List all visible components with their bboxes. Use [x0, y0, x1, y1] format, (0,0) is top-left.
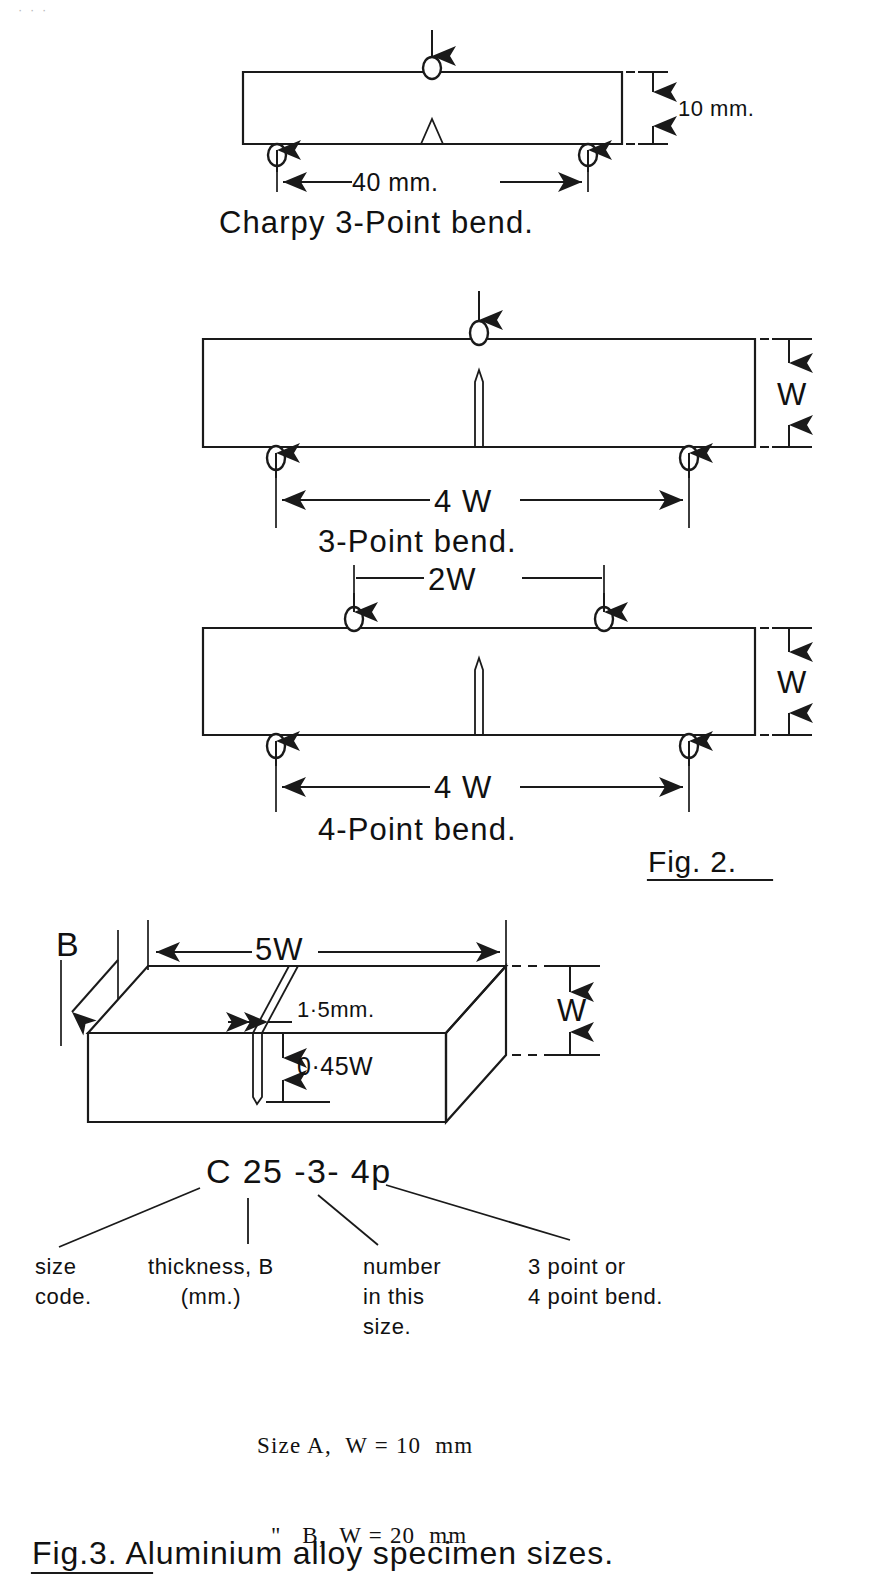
block-thickness-label: B: [56, 925, 79, 964]
code-leader-lines: [59, 1185, 570, 1247]
fourpoint-caption: 4-Point bend.: [318, 812, 517, 848]
charpy-caption: Charpy 3-Point bend.: [219, 205, 534, 241]
fig2-label-text: Fig. 2.: [648, 845, 737, 878]
annotation-thickness-line-1: thickness, B: [148, 1252, 274, 1282]
threepoint-caption: 3-Point bend.: [318, 524, 517, 560]
leader-bend-type: [386, 1185, 570, 1240]
annotation-size-code-line-2: code.: [35, 1282, 92, 1312]
charpy-load-roller: [423, 57, 441, 79]
annotation-number-line-1: number: [363, 1252, 441, 1282]
annotation-bend-type: 3 point or 4 point bend.: [528, 1252, 663, 1312]
block-B-arrow: [72, 960, 118, 1012]
fourpoint-span-label: 4 W: [434, 770, 492, 806]
charpy-span-label: 40 mm.: [352, 168, 438, 197]
annotation-number-line-3: size.: [363, 1312, 441, 1342]
block-notch-depth-profile: [253, 1033, 262, 1104]
leader-size-code: [59, 1188, 200, 1247]
block-notch-depth-label: 0·45W: [297, 1052, 373, 1081]
specimen-code: C 25 -3- 4p: [206, 1152, 391, 1191]
annotation-bend-line-1: 3 point or: [528, 1252, 663, 1282]
threepoint-depth-label: W: [777, 377, 807, 413]
three-point-diagram: [203, 291, 812, 528]
block-depth-label: W: [557, 993, 587, 1029]
four-point-diagram: [203, 565, 812, 812]
annotation-number-in-size: number in this size.: [363, 1252, 441, 1342]
fig3-caption-rest: Aluminium alloy specimen sizes.: [117, 1535, 614, 1571]
fourpoint-slot-notch: [475, 658, 483, 735]
annotation-thickness: thickness, B (mm.): [148, 1252, 274, 1312]
figure-page: · · · 10 mm. 40 mm. Charpy 3-Point bend.…: [0, 0, 880, 1592]
threepoint-slot-notch: [475, 370, 483, 447]
fourpoint-inner-span-label: 2W: [428, 562, 477, 598]
fig2-label: Fig. 2.: [648, 845, 737, 879]
block-front-face: [88, 1033, 446, 1122]
size-table-row: Size A, W = 10 mm: [257, 1431, 473, 1461]
annotation-bend-line-2: 4 point bend.: [528, 1282, 663, 1312]
fig3-caption: Fig.3. Aluminium alloy specimen sizes.: [32, 1535, 614, 1572]
page-corner-mark: · · ·: [18, 2, 48, 17]
annotation-size-code: size code.: [35, 1252, 92, 1312]
annotation-thickness-line-2: (mm.): [148, 1282, 274, 1312]
fourpoint-depth-label: W: [777, 665, 807, 701]
charpy-diagram: [243, 30, 672, 192]
block-notch-width-label: 1·5mm.: [297, 997, 375, 1023]
threepoint-span-label: 4 W: [434, 484, 492, 520]
charpy-beam-outline: [243, 72, 622, 144]
fourpoint-beam-outline: [203, 628, 755, 735]
fig3-caption-label: Fig.3.: [32, 1535, 117, 1571]
block-length-label: 5W: [255, 932, 304, 968]
threepoint-load-roller: [470, 321, 488, 345]
charpy-depth-label: 10 mm.: [678, 96, 754, 122]
leader-number: [318, 1195, 378, 1245]
annotation-size-code-line-1: size: [35, 1252, 92, 1282]
annotation-number-line-2: in this: [363, 1282, 441, 1312]
block-right-face: [446, 966, 506, 1122]
charpy-v-notch: [421, 119, 443, 144]
threepoint-beam-outline: [203, 339, 755, 447]
